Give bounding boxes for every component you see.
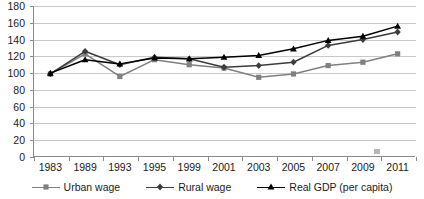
data-point-marker — [395, 29, 401, 36]
data-point-marker — [187, 62, 192, 67]
legend-swatch-icon — [257, 182, 285, 192]
legend-label: Real GDP (per capita) — [289, 182, 392, 193]
series-rural-wage — [47, 29, 400, 78]
data-point-marker — [268, 184, 275, 190]
data-point-marker — [325, 42, 331, 49]
data-point-marker — [291, 71, 296, 76]
legend-marker-icon — [266, 182, 276, 192]
line-chart: 180160140120100806040200 198319891993199… — [0, 0, 424, 199]
data-point-marker — [256, 75, 261, 80]
data-point-marker — [395, 51, 400, 56]
data-point-marker — [157, 184, 163, 191]
data-point-marker — [326, 63, 331, 68]
legend-label: Urban wage — [64, 182, 121, 193]
chart-legend: Urban wageRural wageReal GDP (per capita… — [0, 177, 424, 197]
legend-marker-icon — [155, 182, 165, 192]
data-point-marker — [256, 62, 262, 69]
data-point-marker — [43, 184, 48, 189]
legend-item-rural-wage[interactable]: Rural wage — [146, 182, 231, 193]
data-point-marker — [117, 74, 122, 79]
legend-item-urban-wage[interactable]: Urban wage — [32, 182, 121, 193]
data-point-marker — [360, 60, 365, 65]
legend-swatch-icon — [146, 182, 174, 192]
stray-marker-artifact — [374, 149, 380, 154]
legend-item-real-gdp-per-capita[interactable]: Real GDP (per capita) — [257, 182, 392, 193]
legend-marker-icon — [41, 182, 51, 192]
legend-label: Rural wage — [178, 182, 231, 193]
series-layer — [0, 0, 424, 199]
data-point-marker — [394, 23, 401, 29]
data-point-marker — [290, 59, 296, 66]
legend-swatch-icon — [32, 182, 60, 192]
